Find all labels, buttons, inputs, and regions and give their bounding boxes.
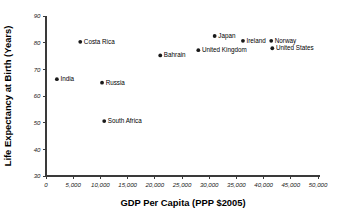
- x-tick-label: 30,000: [200, 181, 219, 188]
- data-point[interactable]: Russia: [100, 79, 125, 86]
- data-point-label: India: [60, 75, 74, 82]
- data-point-label: Japan: [218, 32, 236, 40]
- data-point-label: Costa Rica: [84, 38, 115, 45]
- data-point-label: South Africa: [108, 117, 142, 124]
- data-point-label: United States: [276, 44, 314, 51]
- x-tick-label: 35,000: [227, 181, 246, 188]
- scatter-chart: 30405060708090 05,00010,00015,00020,0002…: [0, 0, 338, 213]
- data-point[interactable]: United States: [270, 44, 313, 51]
- x-tick-group: 05,00010,00015,00020,00025,00030,00035,0…: [44, 176, 328, 188]
- y-tick-label: 80: [34, 39, 41, 46]
- x-axis: 05,00010,00015,00020,00025,00030,00035,0…: [44, 176, 328, 188]
- y-tick-label: 50: [34, 119, 41, 126]
- y-tick-label: 30: [34, 172, 41, 179]
- data-point[interactable]: Ireland: [241, 37, 266, 44]
- x-tick-label: 25,000: [172, 181, 192, 188]
- data-point-marker[interactable]: [78, 40, 82, 44]
- x-tick-label: 45,000: [281, 181, 300, 188]
- data-point-group: IndiaCosta RicaRussiaSouth AfricaBahrain…: [55, 32, 314, 124]
- data-point-label: Ireland: [247, 37, 267, 44]
- data-point[interactable]: Costa Rica: [78, 38, 115, 45]
- y-axis: 30405060708090: [34, 12, 46, 179]
- y-tick-label: 70: [34, 66, 41, 73]
- data-point[interactable]: India: [55, 75, 75, 82]
- x-tick-label: 0: [44, 181, 48, 188]
- data-point-label: United Kingdom: [202, 46, 247, 54]
- data-point-marker[interactable]: [55, 77, 59, 81]
- y-tick-label: 60: [34, 92, 41, 99]
- y-tick-label: 40: [34, 146, 41, 153]
- data-point-marker[interactable]: [213, 34, 217, 38]
- x-tick-label: 50,000: [309, 181, 328, 188]
- x-tick-label: 15,000: [118, 181, 137, 188]
- data-point-marker[interactable]: [270, 46, 274, 50]
- data-point-marker[interactable]: [241, 39, 245, 43]
- y-tick-label: 90: [34, 12, 41, 19]
- data-point-label: Russia: [106, 79, 126, 86]
- data-point-marker[interactable]: [158, 54, 162, 58]
- x-tick-label: 5,000: [66, 181, 82, 188]
- data-point-marker[interactable]: [102, 119, 106, 123]
- data-point[interactable]: Japan: [213, 32, 236, 40]
- y-tick-group: 30405060708090: [34, 12, 46, 179]
- chart-canvas: 30405060708090 05,00010,00015,00020,0002…: [0, 0, 338, 213]
- x-axis-title: GDP Per Capita (PPP $2005): [120, 197, 245, 208]
- data-point-marker[interactable]: [269, 39, 273, 43]
- x-tick-label: 40,000: [254, 181, 273, 188]
- x-tick-label: 20,000: [144, 181, 164, 188]
- data-point[interactable]: Bahrain: [158, 51, 186, 58]
- x-tick-label: 10,000: [91, 181, 110, 188]
- data-point-marker[interactable]: [100, 81, 104, 85]
- data-point-label: Bahrain: [164, 51, 186, 58]
- data-point[interactable]: South Africa: [102, 117, 142, 124]
- y-axis-title: Life Expectancy at Birth (Years): [2, 26, 13, 167]
- data-point-marker[interactable]: [196, 48, 200, 52]
- data-point[interactable]: United Kingdom: [196, 46, 246, 54]
